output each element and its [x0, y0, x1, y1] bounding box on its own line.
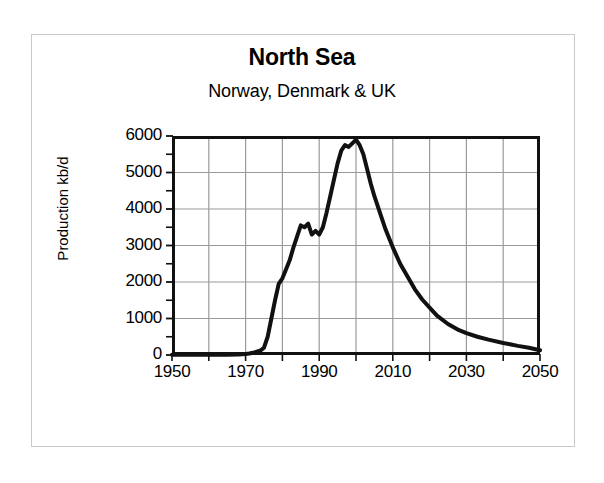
y-tick-label: 3000 — [100, 235, 162, 255]
y-tick-label: 0 — [100, 344, 162, 364]
x-tick-label: 1990 — [284, 362, 354, 382]
x-tick-label: 2010 — [358, 362, 428, 382]
y-axis-label: Production kb/d — [54, 124, 71, 294]
x-tick-label: 2050 — [505, 362, 575, 382]
y-tick-label: 5000 — [100, 162, 162, 182]
y-tick-label: 1000 — [100, 308, 162, 328]
axis-tick-marks — [172, 136, 540, 355]
chart-title: North Sea — [0, 44, 604, 71]
chart-figure: North Sea Norway, Denmark & UK Productio… — [0, 0, 604, 483]
y-tick-label: 2000 — [100, 271, 162, 291]
x-tick-label: 1950 — [137, 362, 207, 382]
x-tick-label: 1970 — [211, 362, 281, 382]
y-tick-label: 4000 — [100, 198, 162, 218]
y-tick-label: 6000 — [100, 125, 162, 145]
chart-subtitle: Norway, Denmark & UK — [0, 81, 604, 102]
x-tick-label: 2030 — [431, 362, 501, 382]
plot-area — [172, 136, 540, 355]
